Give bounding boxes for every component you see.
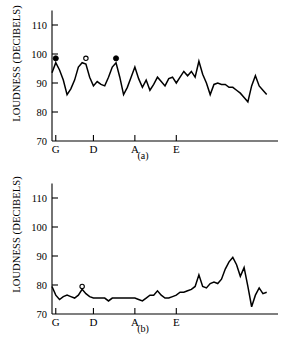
panel-caption-a: (a) bbox=[0, 150, 286, 161]
y-tick-label: 70 bbox=[37, 136, 48, 147]
y-tick-label: 70 bbox=[37, 309, 48, 320]
y-tick-label: 100 bbox=[31, 49, 47, 60]
data-series-line bbox=[52, 61, 267, 102]
marker-filled-circle bbox=[113, 56, 118, 61]
chart-panel-a: LOUDNESS (DECIBELS) 708090100110GDAE (a) bbox=[0, 0, 286, 171]
y-tick-label: 110 bbox=[32, 193, 47, 204]
chart-panel-b: LOUDNESS (DECIBELS) 708090100110GDAE (b) bbox=[0, 171, 286, 342]
y-tick-label: 80 bbox=[37, 280, 48, 291]
marker-filled-circle bbox=[53, 56, 58, 61]
marker-open-circle bbox=[80, 284, 84, 288]
plot-area-b: 708090100110GDAE bbox=[0, 171, 286, 342]
y-tick-label: 80 bbox=[37, 107, 48, 118]
y-tick-label: 90 bbox=[37, 251, 48, 262]
figure-container: LOUDNESS (DECIBELS) 708090100110GDAE (a)… bbox=[0, 0, 286, 343]
y-tick-label: 90 bbox=[37, 78, 48, 89]
plot-area-a: 708090100110GDAE bbox=[0, 0, 286, 171]
y-tick-label: 110 bbox=[32, 20, 47, 31]
marker-open-circle bbox=[84, 56, 88, 60]
panel-caption-b: (b) bbox=[0, 323, 286, 334]
data-series-line bbox=[52, 257, 267, 306]
y-tick-label: 100 bbox=[31, 222, 47, 233]
